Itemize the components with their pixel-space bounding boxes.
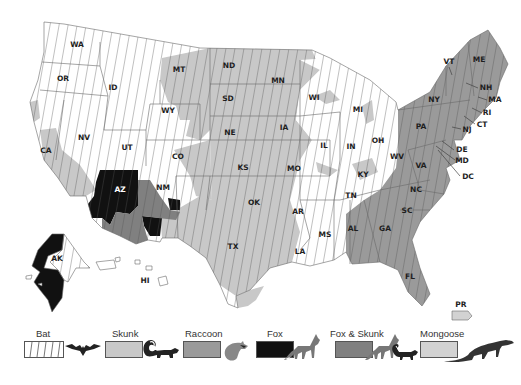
- fox-and-skunk-silhouette-icon: [363, 332, 419, 362]
- state-label-il: IL: [320, 141, 328, 150]
- state-label-ga: GA: [379, 224, 391, 233]
- state-label-ar: AR: [292, 207, 304, 216]
- state-label-co: CO: [172, 152, 184, 161]
- state-label-in: IN: [346, 142, 355, 151]
- state-label-nd: ND: [223, 61, 236, 70]
- state-label-ma: MA: [488, 95, 501, 104]
- state-label-or: OR: [57, 74, 69, 83]
- raccoon-silhouette-icon: [223, 340, 249, 362]
- state-label-de: DE: [456, 145, 467, 154]
- state-label-md: MD: [455, 156, 469, 165]
- state-label-ak: AK: [51, 254, 64, 263]
- state-label-la: LA: [295, 247, 306, 256]
- state-label-nv: NV: [78, 133, 90, 142]
- bat-silhouette-icon: [64, 341, 102, 357]
- legend-label-fox: Fox: [267, 328, 283, 339]
- state-label-dc: DC: [462, 172, 474, 181]
- legend-label-skunk: Skunk: [112, 328, 138, 339]
- state-label-va: VA: [415, 161, 426, 170]
- state-label-tn: TN: [345, 191, 356, 200]
- legend-swatch-skunk: [105, 341, 143, 358]
- state-label-ky: KY: [357, 170, 369, 179]
- state-label-wi: WI: [308, 93, 319, 102]
- alaska-fox-region: [32, 234, 64, 312]
- alaska: [26, 234, 90, 312]
- state-label-wy: WY: [161, 106, 175, 115]
- state-label-ok: OK: [248, 198, 261, 207]
- state-label-id: ID: [108, 83, 117, 92]
- state-label-fl: FL: [405, 272, 415, 281]
- state-label-mi: MI: [353, 105, 363, 114]
- state-label-vt: VT: [444, 57, 456, 66]
- legend-swatch-raccoon: [183, 341, 221, 358]
- legend-item-raccoon: Raccoon: [183, 328, 253, 378]
- state-label-wa: WA: [70, 40, 84, 49]
- state-label-ia: IA: [280, 123, 289, 132]
- state-label-mo: MO: [287, 164, 301, 173]
- state-label-mt: MT: [173, 65, 186, 74]
- state-label-al: AL: [348, 224, 359, 233]
- state-label-sd: SD: [222, 94, 234, 103]
- legend-swatch-bat-hatch: [24, 341, 64, 358]
- state-label-nh: NH: [480, 83, 493, 92]
- state-label-nj: NJ: [462, 125, 471, 134]
- state-label-pr: PR: [455, 300, 466, 309]
- legend-item-fox: Fox: [256, 328, 331, 378]
- state-label-nc: NC: [410, 185, 422, 194]
- state-label-ms: MS: [319, 230, 332, 239]
- mongoose-silhouette-icon: [442, 337, 516, 363]
- state-label-wv: WV: [390, 152, 404, 161]
- puerto-rico-mongoose-region: [452, 311, 472, 320]
- map-legend: Bat Skunk Raccoon Fox: [0, 328, 521, 378]
- state-label-ut: UT: [121, 143, 133, 152]
- state-label-hi: HI: [140, 276, 149, 285]
- legend-item-skunk: Skunk: [105, 328, 185, 378]
- state-label-ct: CT: [477, 120, 489, 129]
- fox-silhouette-icon: [282, 332, 322, 362]
- legend-item-bat: Bat: [24, 328, 104, 378]
- state-label-sc: SC: [402, 206, 413, 215]
- state-label-ny: NY: [428, 95, 440, 104]
- state-label-ks: KS: [237, 163, 248, 172]
- state-label-pa: PA: [416, 122, 427, 131]
- legend-label-bat: Bat: [36, 328, 50, 339]
- legend-label-raccoon: Raccoon: [185, 328, 223, 339]
- state-label-tx: TX: [228, 242, 239, 251]
- state-label-ne: NE: [224, 128, 235, 137]
- state-label-az: AZ: [114, 185, 126, 194]
- state-label-oh: OH: [372, 136, 385, 145]
- state-label-nm: NM: [156, 183, 170, 192]
- hawaii: [96, 257, 168, 286]
- skunk-silhouette-icon: [141, 338, 181, 360]
- legend-item-mongoose: Mongoose: [420, 328, 520, 378]
- state-label-mn: MN: [271, 76, 285, 85]
- state-label-ri: RI: [483, 108, 492, 117]
- state-label-ca: CA: [40, 146, 52, 155]
- state-label-me: ME: [473, 55, 486, 64]
- legend-item-fox-skunk: Fox & Skunk: [335, 328, 430, 378]
